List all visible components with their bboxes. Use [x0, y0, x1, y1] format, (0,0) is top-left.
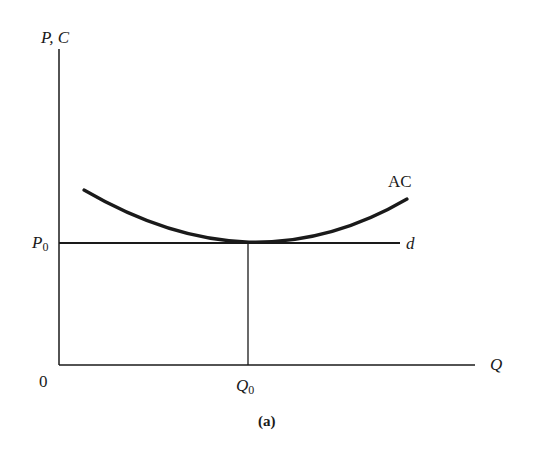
- q0-label: Q0: [236, 377, 254, 396]
- diagram-canvas: [0, 0, 537, 465]
- x-axis-label: Q: [490, 356, 502, 373]
- ac-curve: [84, 190, 407, 242]
- y-axis-label: P, C: [41, 29, 69, 46]
- origin-label: 0: [39, 373, 48, 390]
- p0-label-sub: 0: [42, 240, 48, 254]
- figure-caption: (a): [258, 414, 276, 429]
- p0-label: P0: [32, 234, 48, 253]
- p0-label-main: P: [32, 233, 42, 252]
- q0-label-main: Q: [236, 376, 248, 395]
- demand-label: d: [406, 235, 415, 252]
- q0-label-sub: 0: [248, 383, 254, 397]
- ac-curve-label: AC: [388, 173, 412, 190]
